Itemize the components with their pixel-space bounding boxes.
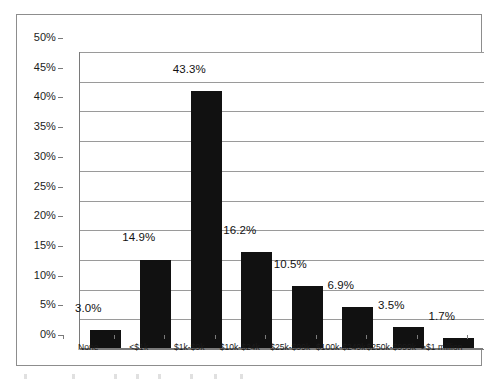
- gridline-45: [80, 82, 484, 83]
- gridline-35: [80, 141, 484, 142]
- y-tick-mark: [58, 216, 63, 217]
- x-tick-mark: [316, 335, 317, 339]
- y-axis-tick-label: 40%: [16, 91, 56, 102]
- bar-value-label: 16.2%: [208, 224, 271, 236]
- bar-value-label: 10.5%: [259, 258, 322, 270]
- y-axis-tick-label: 35%: [16, 121, 56, 132]
- gridline-50: [80, 52, 484, 53]
- bar-chart-figure: 50%45%40%35%30%25%20%15%10%5%0%3.0%None1…: [0, 0, 492, 382]
- bar-value-label: 14.9%: [107, 231, 170, 243]
- x-tick-mark: [265, 335, 266, 339]
- y-tick-mark: [58, 127, 63, 128]
- bar: [191, 91, 222, 348]
- x-tick-mark: [467, 335, 468, 339]
- y-tick-mark: [58, 157, 63, 158]
- y-axis-tick-label: 20%: [16, 210, 56, 221]
- bar-value-label: 6.9%: [309, 279, 372, 291]
- bar-value-label: 1.7%: [410, 310, 473, 322]
- bar-value-label: 3.0%: [57, 302, 120, 314]
- x-tick-mark: [215, 335, 216, 339]
- y-axis-tick-label: 15%: [16, 240, 56, 251]
- y-tick-mark: [58, 187, 63, 188]
- y-axis-tick-label: 5%: [16, 299, 56, 310]
- gridline-25: [80, 201, 484, 202]
- y-axis-tick-label: 45%: [16, 62, 56, 73]
- y-tick-mark: [58, 38, 63, 39]
- x-tick-mark: [366, 335, 367, 339]
- x-tick-mark: [164, 335, 165, 339]
- scan-artifact: [18, 374, 318, 379]
- bar: [140, 260, 171, 349]
- x-axis-category-label: >$1 million: [405, 342, 480, 352]
- y-axis-tick-label: 10%: [16, 270, 56, 281]
- gridline-30: [80, 171, 484, 172]
- x-tick-mark: [63, 335, 64, 339]
- y-tick-mark: [58, 68, 63, 69]
- bar: [292, 286, 323, 348]
- y-axis-tick-label: 25%: [16, 181, 56, 192]
- y-axis-tick-label: 30%: [16, 151, 56, 162]
- y-tick-mark: [58, 97, 63, 98]
- bar-value-label: 43.3%: [158, 63, 221, 75]
- y-axis-tick-label: 0%: [16, 329, 56, 340]
- x-tick-mark: [114, 335, 115, 339]
- y-tick-mark: [58, 276, 63, 277]
- gridline-40: [80, 111, 484, 112]
- chart-outer-frame: 50%45%40%35%30%25%20%15%10%5%0%3.0%None1…: [16, 14, 482, 366]
- y-tick-mark: [58, 246, 63, 247]
- x-tick-mark: [417, 335, 418, 339]
- y-axis-tick-label: 50%: [16, 32, 56, 43]
